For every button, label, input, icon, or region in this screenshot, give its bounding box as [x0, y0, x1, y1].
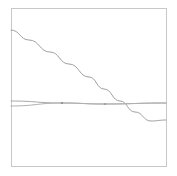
- plot-frame-border: [12, 9, 167, 167]
- series-descending-curve: [11, 30, 166, 121]
- series-group: [11, 30, 166, 121]
- line-chart-canvas: [0, 0, 177, 176]
- convergence-marker: [61, 102, 63, 104]
- intersection-marker: [104, 103, 106, 105]
- chart-figure: [0, 0, 177, 176]
- series-lower-flat-line: [11, 103, 166, 106]
